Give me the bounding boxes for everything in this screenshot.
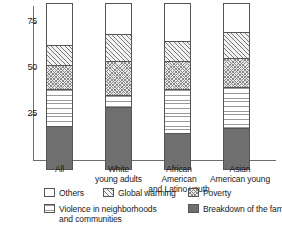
stacked-bar-chart: 75 50 25 <box>0 0 282 226</box>
legend-label-global-warming: Global warming <box>118 188 176 198</box>
segment-white-others[interactable] <box>105 3 132 34</box>
legend-swatch-breakdown-icon <box>188 204 199 213</box>
x-label-white-line1: White <box>87 164 150 174</box>
segment-all-violence[interactable] <box>46 89 73 126</box>
x-label-aa-latino-line1: African American <box>148 164 210 184</box>
segment-white-poverty[interactable] <box>105 61 132 94</box>
legend-swatch-poverty-icon <box>188 188 199 197</box>
x-label-asian-line1: Asian <box>208 164 272 174</box>
legend-label-breakdown: Breakdown of the family <box>203 204 282 214</box>
bar-all[interactable] <box>46 10 73 170</box>
segment-asian-others[interactable] <box>223 3 250 33</box>
legend-swatch-violence-icon <box>44 204 55 213</box>
legend-label-violence: Violence in neighborhoods and communitie… <box>59 204 169 224</box>
x-label-asian-american-young: Asian American young <box>208 164 272 184</box>
y-tick-mark-25 <box>31 114 36 115</box>
segment-aa-latino-violence[interactable] <box>164 89 191 133</box>
y-axis-line <box>33 6 34 161</box>
legend-label-others: Others <box>59 188 84 198</box>
x-label-all: All <box>37 164 82 174</box>
segment-all-others[interactable] <box>46 3 73 45</box>
y-tick-mark-75 <box>31 22 36 23</box>
bar-african-american-latino-youth[interactable] <box>164 10 191 170</box>
segment-aa-latino-others[interactable] <box>164 3 191 42</box>
legend-label-poverty: Poverty <box>203 188 231 198</box>
bar-white-young-adults[interactable] <box>105 10 132 170</box>
x-label-all-line1: All <box>37 164 82 174</box>
segment-asian-poverty[interactable] <box>223 58 250 88</box>
legend-swatch-others-icon <box>44 188 55 197</box>
bar-asian-american-young[interactable] <box>223 10 250 170</box>
segment-all-poverty[interactable] <box>46 65 73 89</box>
segment-all-global-warming[interactable] <box>46 45 73 65</box>
segment-asian-violence[interactable] <box>223 87 250 128</box>
x-label-white-line2: young adults <box>87 174 150 184</box>
x-label-asian-line2: American young <box>208 174 272 184</box>
legend-swatch-global-warming-icon <box>103 188 114 197</box>
segment-asian-global-warming[interactable] <box>223 32 250 58</box>
y-tick-mark-50 <box>31 68 36 69</box>
chart-legend: Others Global warming Poverty Violence i… <box>0 186 282 226</box>
x-label-white-young-adults: White young adults <box>87 164 150 184</box>
segment-aa-latino-global-warming[interactable] <box>164 41 191 61</box>
segment-white-violence[interactable] <box>105 95 132 108</box>
segment-white-breakdown[interactable] <box>105 107 132 170</box>
segment-white-global-warming[interactable] <box>105 34 132 62</box>
segment-aa-latino-poverty[interactable] <box>164 61 191 89</box>
plot-area: 75 50 25 <box>0 0 282 170</box>
